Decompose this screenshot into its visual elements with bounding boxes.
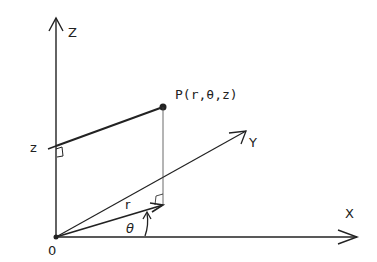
- origin-label: 0: [48, 243, 56, 258]
- cylindrical-coordinate-diagram: Z X Y 0 z P(r,θ,z) r θ: [0, 0, 377, 262]
- point-p-label: P(r,θ,z): [175, 87, 238, 102]
- radius-label: r: [125, 197, 131, 212]
- x-axis-label: X: [345, 206, 354, 221]
- z-height-label: z: [30, 140, 37, 155]
- z-axis: [49, 18, 63, 237]
- y-axis: [56, 131, 246, 237]
- z-right-angle-marker-icon: [56, 147, 63, 157]
- x-axis: [56, 230, 357, 244]
- z-to-point-line: [56, 107, 163, 146]
- z-axis-label: Z: [68, 25, 77, 40]
- z-height-tick: [48, 146, 56, 149]
- theta-arc: [143, 212, 151, 236]
- y-axis-label: Y: [248, 135, 257, 150]
- angle-label: θ: [126, 221, 134, 236]
- r-vector: [56, 203, 163, 237]
